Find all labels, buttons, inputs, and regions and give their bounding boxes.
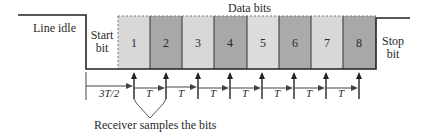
bit-number-3: 3 bbox=[182, 36, 214, 51]
bit-number-8: 8 bbox=[343, 36, 375, 51]
receiver-pointer-lines bbox=[134, 99, 166, 118]
bit-number-1: 1 bbox=[118, 36, 150, 51]
data-bits-label: Data bits bbox=[228, 2, 271, 15]
interval-label-t1: T bbox=[146, 87, 152, 99]
bit-number-5: 5 bbox=[247, 36, 279, 51]
bit-number-6: 6 bbox=[279, 36, 311, 51]
start-bit-line-2: bit bbox=[88, 42, 116, 55]
stop-bit-label: Stop bit bbox=[378, 35, 408, 61]
stop-bit-line-2: bit bbox=[378, 48, 408, 61]
bit-number-2: 2 bbox=[150, 36, 182, 51]
receiver-samples-label: Receiver samples the bits bbox=[94, 119, 216, 132]
line-idle-label: Line idle bbox=[33, 22, 76, 35]
start-bit-label: Start bit bbox=[88, 29, 116, 55]
interval-label-t6: T bbox=[306, 87, 312, 99]
interval-label-t3: T bbox=[210, 87, 216, 99]
interval-label-t7: T bbox=[338, 87, 344, 99]
bit-number-7: 7 bbox=[311, 36, 343, 51]
bit-number-4: 4 bbox=[214, 36, 246, 51]
interval-label-3t2: 3T/2 bbox=[99, 87, 119, 99]
interval-label-t5: T bbox=[274, 87, 280, 99]
interval-label-t2: T bbox=[178, 87, 184, 99]
interval-arrows bbox=[86, 83, 358, 91]
interval-label-t4: T bbox=[242, 87, 248, 99]
